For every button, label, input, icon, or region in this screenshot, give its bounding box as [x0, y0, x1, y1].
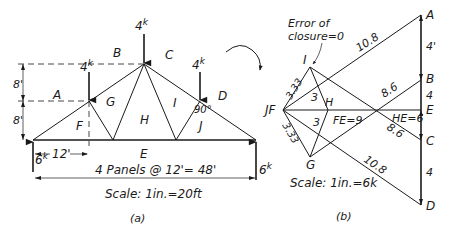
space-label-C: C [165, 48, 174, 62]
dim-arrow-icon [82, 152, 88, 156]
dim-panel-width: 12' [52, 147, 71, 161]
point-label-G: G [306, 158, 315, 172]
caption-a: (a) [130, 212, 145, 225]
point-label-D: D [426, 199, 435, 213]
truss-analysis-figure: 8' 8' 4k 4k 4k 6k 6k 12' 4 Panels @ 12'= [0, 0, 450, 232]
space-label-J: J [197, 119, 203, 133]
force-value-CD: 4 [426, 166, 433, 179]
closure-annotation-line1: Error of [288, 17, 331, 30]
member-web-2 [113, 64, 144, 140]
force-value-HG: 3 [313, 116, 320, 129]
point-label-B: B [426, 72, 434, 86]
load-right-label: 4k [192, 56, 206, 72]
dim-arrow-icon [35, 176, 41, 180]
force-value-AI: 10.8 [354, 30, 382, 54]
closure-annotation-line2: closure=0 [288, 30, 344, 43]
space-label-F: F [76, 119, 84, 133]
reaction-right-label: 6k [259, 161, 273, 177]
dim-arrow-icon [21, 95, 25, 101]
force-value-AB: 4' [426, 40, 436, 53]
force-value-BE: 4 [426, 89, 433, 102]
angle-label: 90° [194, 104, 212, 115]
caption-b: (b) [336, 210, 352, 223]
space-label-D: D [218, 89, 227, 103]
point-label-I: I [303, 53, 307, 67]
force-value-HE: HE=6 [392, 112, 423, 125]
space-label-A: A [52, 88, 61, 102]
dim-arrow-icon [21, 64, 25, 70]
truss-diagram: 8' 8' 4k 4k 4k 6k 6k 12' 4 Panels @ 12'= [13, 17, 273, 225]
dim-height-lower: 8' [13, 114, 23, 127]
space-label-G: G [106, 95, 115, 109]
annotation-leader-icon [313, 43, 322, 64]
space-label-E: E [140, 147, 148, 161]
force-polygon: Error of closure=0 A B E C D JF I H G 10… [263, 8, 436, 223]
scale-label-b: Scale: 1in.=6k [290, 176, 378, 190]
dim-height-upper: 8' [13, 78, 23, 91]
arrow-icon [419, 74, 423, 80]
point-label-H: H [325, 96, 333, 109]
dim-span: 4 Panels @ 12'= 48' [95, 163, 216, 177]
dim-arrow-icon [21, 134, 25, 140]
dim-arrow-icon [249, 176, 255, 180]
point-label-E: E [426, 103, 434, 117]
load-left-label: 4k [80, 58, 94, 74]
space-label-H: H [140, 113, 149, 127]
force-value-JF-G: 3.33 [280, 121, 301, 146]
scale-label-a: Scale: 1in.=20ft [105, 187, 203, 201]
dim-arrow-icon [21, 101, 25, 107]
space-label-B: B [113, 46, 121, 60]
force-value-IH: 3 [311, 91, 318, 104]
point-label-A: A [425, 8, 434, 22]
curved-arrow-icon [226, 45, 260, 70]
point-label-C: C [426, 134, 435, 148]
space-label-I: I [173, 96, 177, 110]
load-apex-label: 4k [135, 17, 149, 33]
force-value-FE: FE=9 [333, 114, 363, 127]
force-value-BH: 8.6 [379, 80, 401, 100]
point-label-JF: JF [263, 103, 277, 117]
